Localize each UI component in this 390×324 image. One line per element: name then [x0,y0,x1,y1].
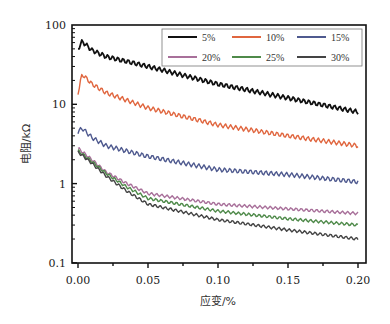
legend: 5% 10% 15% 20% 25% 30% [162,29,362,66]
x-tick-label-0-20: 0.20 [346,274,371,287]
x-tick-label-0-15: 0.15 [276,274,301,287]
x-tick-label-0-05: 0.05 [136,274,161,287]
x-axis-title: 应变/% [200,294,236,308]
x-tick-label-0-00: 0.00 [66,274,91,287]
legend-label-15: 15% [331,32,349,43]
x-tick-label-0-10: 0.10 [206,274,231,287]
legend-label-5: 5% [202,32,215,43]
y-tick-label-100: 100 [45,19,66,32]
y-tick-label-0-1: 0.1 [49,257,67,270]
resistance-strain-chart: 100 10 1 0.1 0.00 0.05 0.10 0.15 0.20 应变… [0,0,390,324]
series-line-25pct [78,150,358,226]
y-tick-label-10: 10 [52,98,66,111]
series-line-15pct [78,128,358,184]
y-tick-label-1: 1 [59,178,66,191]
legend-label-30: 30% [331,52,349,63]
series-line-30pct [78,151,358,240]
plot-curves [78,40,358,240]
legend-label-25: 25% [266,52,284,63]
legend-label-10: 10% [266,32,284,43]
legend-label-20: 20% [202,52,220,63]
y-axis-title: 电阻/kΩ [20,124,33,164]
